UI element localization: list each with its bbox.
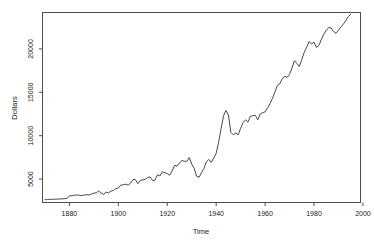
x-tick-label: 1920 bbox=[159, 210, 175, 217]
x-tick-label: 1880 bbox=[62, 210, 78, 217]
x-tick-label: 2000 bbox=[355, 210, 371, 217]
time-series-plot: 5000100001500020000 18801900192019401960… bbox=[0, 0, 374, 250]
data-series-line bbox=[45, 14, 351, 199]
y-axis-ticks: 5000100001500020000 bbox=[28, 39, 43, 187]
y-tick-label: 10000 bbox=[28, 126, 35, 146]
plot-frame bbox=[43, 13, 361, 203]
x-tick-label: 1940 bbox=[208, 210, 224, 217]
y-tick-label: 20000 bbox=[28, 39, 35, 59]
x-axis-ticks: 1880190019201940196019802000 bbox=[62, 203, 371, 217]
chart-screen: 5000100001500020000 18801900192019401960… bbox=[0, 0, 374, 250]
x-tick-label: 1900 bbox=[111, 210, 127, 217]
y-tick-label: 5000 bbox=[28, 171, 35, 187]
x-axis-title: Time bbox=[193, 227, 209, 236]
x-tick-label: 1980 bbox=[306, 210, 322, 217]
y-axis-title: Dollars bbox=[10, 96, 19, 120]
x-tick-label: 1960 bbox=[257, 210, 273, 217]
y-tick-label: 15000 bbox=[28, 82, 35, 102]
